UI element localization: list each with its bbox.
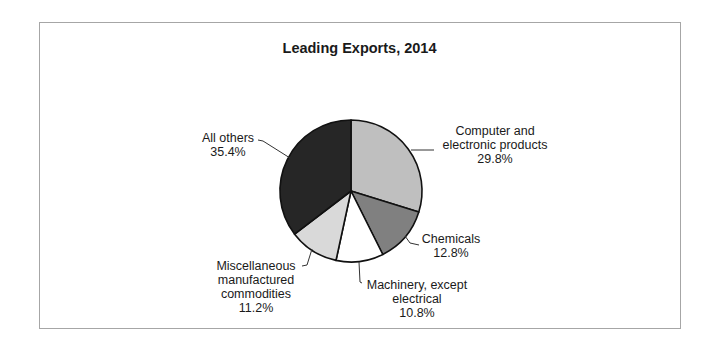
label-chemicals: Chemicals 12.8% xyxy=(416,232,486,260)
leader-others xyxy=(258,140,290,158)
label-value: 10.8% xyxy=(357,306,477,320)
label-value: 29.8% xyxy=(435,152,555,166)
label-text: commodities xyxy=(211,287,301,301)
label-text: All others xyxy=(198,131,258,145)
label-computer: Computer and electronic products 29.8% xyxy=(435,124,555,166)
label-others: All others 35.4% xyxy=(198,131,258,159)
label-machinery: Machinery, except electrical 10.8% xyxy=(357,278,477,320)
label-text: electrical xyxy=(357,292,477,306)
label-text: Machinery, except xyxy=(357,278,477,292)
label-text: Computer and xyxy=(435,124,555,138)
label-value: 35.4% xyxy=(198,145,258,159)
label-misc: Miscellaneous manufactured commodities 1… xyxy=(211,259,301,315)
label-value: 11.2% xyxy=(211,301,301,315)
label-text: electronic products xyxy=(435,138,555,152)
label-text: manufactured xyxy=(211,273,301,287)
label-text: Chemicals xyxy=(416,232,486,246)
label-text: Miscellaneous xyxy=(211,259,301,273)
leader-misc xyxy=(302,249,312,266)
label-value: 12.8% xyxy=(416,246,486,260)
